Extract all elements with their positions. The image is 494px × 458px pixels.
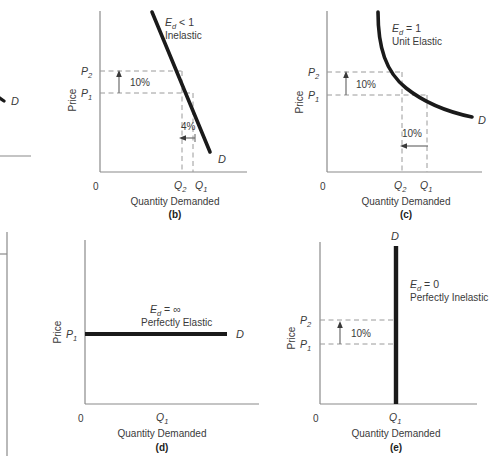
y-axis-title-d: Price: [52, 320, 63, 343]
panel-b: 10% 4% P2 P1 Q2 Q1 0: [62, 0, 262, 220]
elasticity-name-b: Inelastic: [165, 30, 202, 41]
price-tick-p1-e: P1: [300, 338, 311, 353]
qty-tick-q1-b: Q1: [195, 179, 207, 194]
demand-label-e: D: [391, 230, 399, 242]
panel-label-b: (b): [169, 209, 182, 220]
demand-label-b: D: [218, 153, 226, 165]
price-tick-p2-b: P2: [81, 65, 93, 80]
price-tick-p1-c: P1: [308, 89, 319, 104]
price-change-arrow-e: [337, 321, 343, 344]
panel-c: 10% 10% P2 P1 Q2 Q1 0: [292, 0, 494, 220]
x-axis-title-d: Quantity Demanded: [118, 428, 207, 439]
price-change-arrow-c: [343, 71, 349, 95]
x-axis-title-c: Quantity Demanded: [362, 196, 451, 207]
panel-a-fragment: D: [0, 0, 60, 200]
panel-border-fragment-left: [0, 228, 22, 458]
y-axis-title-e: Price: [286, 326, 297, 349]
elasticity-expression-c: Ed = 1: [392, 22, 421, 37]
demand-line-a: [0, 94, 4, 101]
panel-label-d: (d): [156, 442, 169, 453]
y-axis-title-c: Price: [294, 90, 305, 113]
price-change-label-b: 10%: [130, 77, 150, 88]
price-change-label-e: 10%: [351, 328, 371, 339]
price-change-label-c: 10%: [356, 79, 376, 90]
elasticity-name-d: Perfectly Elastic: [141, 317, 212, 328]
qty-change-label-c: 10%: [402, 128, 422, 139]
x-axis-title-e: Quantity Demanded: [352, 428, 441, 439]
price-change-arrow-b: [116, 70, 122, 93]
demand-label-d: D: [236, 328, 244, 340]
x-axis-title-b: Quantity Demanded: [131, 196, 220, 207]
panel-e: 10% P2 P1 Q1 0 Price Quantity Demanded E…: [262, 228, 494, 458]
elasticity-name-e: Perfectly Inelastic: [410, 292, 488, 303]
qty-tick-q1-d: Q1: [156, 411, 168, 426]
price-tick-p2-c: P2: [308, 66, 320, 81]
qty-change-arrow-b: [179, 134, 195, 142]
qty-tick-q2-c: Q2: [394, 179, 407, 194]
origin-label-d: 0: [78, 413, 84, 424]
elasticity-expression-d: Ed = ∞: [150, 303, 181, 318]
qty-change-label-b: 4%: [181, 121, 196, 132]
y-axis-title-b: Price: [67, 88, 78, 111]
qty-tick-q2-b: Q2: [174, 179, 187, 194]
elasticity-expression-b: Ed < 1: [165, 16, 194, 31]
panel-label-e: (e): [390, 442, 402, 453]
price-tick-p1-b: P1: [81, 87, 92, 102]
panel-d: P1 Q1 0 Price Quantity Demanded Ed = ∞ P…: [22, 228, 262, 458]
panel-label-c: (c): [400, 209, 412, 220]
qty-change-arrow-c: [400, 143, 428, 149]
elasticity-figure: D 10%: [0, 0, 494, 458]
price-tick-p1-d: P1: [66, 328, 77, 343]
price-tick-p2-e: P2: [300, 314, 312, 329]
elasticity-name-c: Unit Elastic: [392, 36, 442, 47]
qty-tick-q1-e: Q1: [389, 411, 401, 426]
elasticity-expression-e: Ed = 0: [410, 278, 439, 293]
origin-label-e: 0: [313, 413, 319, 424]
demand-label-a: D: [11, 95, 19, 107]
origin-label-b: 0: [93, 181, 99, 192]
origin-label-c: 0: [320, 181, 326, 192]
demand-label-c: D: [478, 114, 486, 126]
qty-tick-q1-c: Q1: [420, 179, 432, 194]
